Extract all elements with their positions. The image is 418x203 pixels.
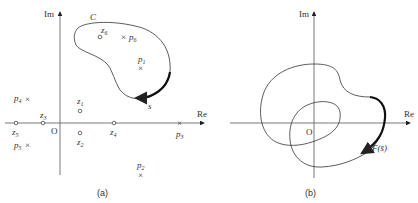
svg-text:z5: z5 [11, 127, 19, 138]
im-label-b: Im [299, 9, 309, 19]
contour-label: C [90, 12, 97, 22]
panel-b: Im Re O F(s̄) (b) [230, 9, 414, 198]
svg-text:p3: p3 [175, 129, 184, 140]
zero-z1: z1 [76, 96, 84, 113]
s-label: s [148, 101, 152, 111]
pole-p6: × p6 [121, 32, 137, 43]
zero-z5: z5 [11, 121, 19, 138]
re-label-a: Re [197, 109, 207, 119]
svg-text:z6: z6 [100, 25, 108, 36]
caption-b: (b) [305, 188, 316, 198]
pole-p2: p2 × [136, 160, 145, 180]
svg-text:p4: p4 [13, 93, 22, 104]
svg-text:×: × [138, 63, 143, 73]
re-label-b: Re [404, 109, 414, 119]
svg-text:z2: z2 [76, 137, 84, 148]
svg-text:×: × [177, 118, 182, 128]
zero-z2: z2 [76, 131, 84, 148]
mapping-label: F(s̄) [371, 143, 387, 153]
caption-a: (a) [97, 188, 108, 198]
panel-a: Im Re O C s z6 z1 z2 z3 z4 [5, 9, 207, 198]
zero-z6: z6 [98, 25, 107, 39]
svg-text:p5: p5 [13, 140, 22, 151]
origin-label-b: O [306, 127, 313, 137]
diagram-canvas: Im Re O C s z6 z1 z2 z3 z4 [0, 0, 418, 203]
svg-text:×: × [121, 32, 126, 42]
svg-text:z4: z4 [109, 127, 117, 138]
svg-text:z3: z3 [39, 110, 47, 121]
contour-direction-arc [136, 72, 170, 98]
pole-p5: p5 × [13, 140, 30, 151]
pole-p4: p4 × [13, 93, 30, 104]
im-label-a: Im [44, 9, 54, 19]
svg-text:×: × [25, 140, 30, 150]
svg-text:p6: p6 [128, 32, 137, 43]
zero-z3: z3 [39, 110, 47, 125]
pole-p3: × p3 [175, 118, 184, 140]
mapped-curve-outer [261, 64, 386, 167]
svg-text:z1: z1 [76, 96, 84, 107]
svg-text:×: × [138, 170, 143, 180]
origin-label-a: O [51, 126, 58, 136]
pole-p1: p1 × [137, 54, 146, 73]
zero-z4: z4 [109, 121, 117, 138]
svg-text:×: × [25, 94, 30, 104]
